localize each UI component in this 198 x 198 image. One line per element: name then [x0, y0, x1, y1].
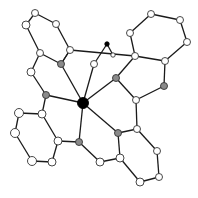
atom-C10 [177, 17, 184, 24]
atom-C21 [38, 110, 46, 118]
bond-C18-C19 [120, 158, 140, 182]
molecular-structure-diagram [0, 0, 198, 198]
atom-X1 [105, 42, 109, 46]
bond-C9-C10 [151, 14, 180, 20]
bonds-layer [15, 13, 187, 182]
atom-C1 [32, 10, 39, 17]
atom-C4 [37, 50, 44, 57]
bond-C11-C12 [165, 42, 187, 61]
atom-C9 [148, 11, 155, 18]
atom-C8 [127, 30, 134, 37]
bond-C12-C13 [135, 56, 165, 61]
atom-C20 [96, 158, 104, 166]
atom-C6 [27, 68, 35, 76]
bond-C14-C15 [136, 100, 137, 129]
atom-C26 [54, 137, 62, 145]
atom-C15 [134, 126, 141, 133]
atom-M [78, 98, 89, 109]
atom-C2 [22, 21, 30, 29]
atom-C24 [28, 157, 37, 166]
atom-C11 [184, 39, 191, 46]
atom-C5 [67, 47, 74, 54]
bond-M-C7 [83, 64, 94, 103]
atom-N4 [76, 139, 83, 146]
bond-M-N5 [83, 103, 118, 133]
atom-C16 [154, 148, 161, 155]
atom-C17 [156, 174, 163, 181]
atom-C3 [53, 21, 60, 28]
atom-N5 [115, 130, 122, 137]
atom-C7 [91, 61, 98, 68]
atom-C23 [11, 129, 20, 138]
atom-C19 [116, 154, 124, 162]
bond-N2-C13 [116, 56, 135, 78]
atom-N2 [113, 75, 120, 82]
bond-C3-C5 [56, 24, 70, 50]
bond-C26-C21 [42, 114, 58, 141]
bond-M-N2 [83, 78, 116, 103]
bond-M-N1 [61, 64, 83, 103]
atom-C13 [132, 53, 139, 60]
atom-X2 [111, 53, 115, 57]
atoms-layer [11, 10, 191, 187]
atom-C14 [133, 97, 140, 104]
bond-C8-C9 [130, 14, 151, 33]
bond-N2-C14 [116, 78, 136, 100]
atom-C18 [136, 178, 144, 186]
atom-C12 [162, 58, 169, 65]
bond-N6-C14 [136, 86, 164, 100]
atom-N3 [43, 92, 50, 99]
atom-N6 [161, 83, 168, 90]
bond-C2-C4 [26, 25, 40, 53]
bond-C15-C16 [137, 129, 157, 151]
atom-C22 [15, 109, 24, 118]
atom-C25 [48, 158, 56, 166]
atom-N1 [58, 61, 65, 68]
